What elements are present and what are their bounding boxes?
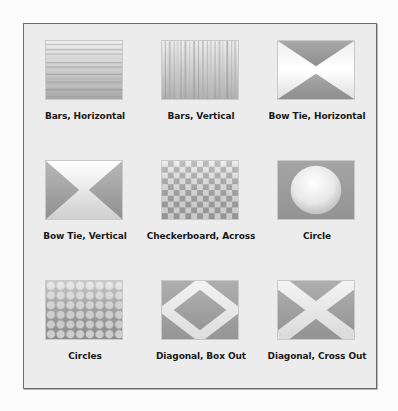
transition-label: Bars, Horizontal (20, 111, 150, 121)
bow-tie-vertical-icon (45, 160, 123, 220)
transition-circle[interactable]: Circle (258, 149, 376, 269)
transition-label: Diagonal, Cross Out (252, 351, 382, 361)
transition-checkerboard-across[interactable]: Checkerboard, Across (142, 149, 260, 269)
transition-label: Circle (252, 231, 382, 241)
transition-bow-tie-vertical[interactable]: Bow Tie, Vertical (26, 149, 144, 269)
transition-diagonal-cross-out[interactable]: Diagonal, Cross Out (258, 269, 376, 389)
transition-label: Bow Tie, Vertical (20, 231, 150, 241)
transition-label: Bow Tie, Horizontal (252, 111, 382, 121)
transition-diagonal-box-out[interactable]: Diagonal, Box Out (142, 269, 260, 389)
transition-circles[interactable]: Circles (26, 269, 144, 389)
circles-icon (45, 280, 123, 340)
diagonal-box-out-icon (161, 280, 239, 340)
transition-label: Diagonal, Box Out (136, 351, 266, 361)
transition-bars-vertical[interactable]: Bars, Vertical (142, 29, 260, 149)
transition-gallery-panel: Bars, Horizontal (23, 23, 377, 389)
checkerboard-across-icon (161, 160, 239, 220)
transition-label: Circles (20, 351, 150, 361)
transition-bars-horizontal[interactable]: Bars, Horizontal (26, 29, 144, 149)
bars-vertical-icon (161, 40, 239, 100)
bars-horizontal-icon (45, 40, 123, 100)
transition-label: Checkerboard, Across (136, 231, 266, 241)
transition-bow-tie-horizontal[interactable]: Bow Tie, Horizontal (258, 29, 376, 149)
circle-icon (277, 160, 355, 220)
bow-tie-horizontal-icon (277, 40, 355, 100)
diagonal-cross-out-icon (277, 280, 355, 340)
transition-label: Bars, Vertical (136, 111, 266, 121)
